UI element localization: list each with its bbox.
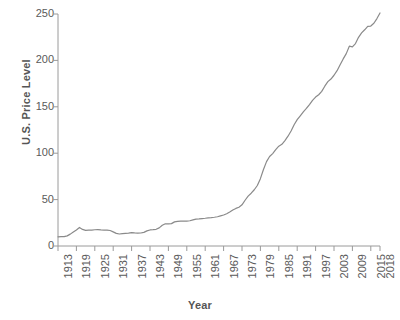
x-tick-1937: 1937 <box>136 254 148 278</box>
x-tick-1961: 1961 <box>209 254 221 278</box>
price-level-line-chart: U.S. Price Level 0 50 100 150 200 250 19… <box>0 0 400 320</box>
x-tick-2003: 2003 <box>338 254 350 278</box>
x-tick-1973: 1973 <box>246 254 258 278</box>
y-tick-marks <box>53 14 58 246</box>
x-tick-1919: 1919 <box>80 254 92 278</box>
x-tick-1991: 1991 <box>301 254 313 278</box>
x-tick-1997: 1997 <box>320 254 332 278</box>
x-tick-1955: 1955 <box>191 254 203 278</box>
x-tick-1931: 1931 <box>117 254 129 278</box>
x-axis-title: Year <box>0 299 400 311</box>
series-line-us-price-level <box>58 13 380 237</box>
x-tick-1967: 1967 <box>228 254 240 278</box>
x-tick-1913: 1913 <box>62 254 74 278</box>
x-tick-1949: 1949 <box>172 254 184 278</box>
x-tick-1943: 1943 <box>154 254 166 278</box>
x-tick-marks <box>58 246 380 251</box>
x-tick-2009: 2009 <box>356 254 368 278</box>
x-tick-1985: 1985 <box>283 254 295 278</box>
x-tick-1925: 1925 <box>99 254 111 278</box>
x-tick-1979: 1979 <box>264 254 276 278</box>
x-tick-2018: 2018 <box>384 254 396 278</box>
